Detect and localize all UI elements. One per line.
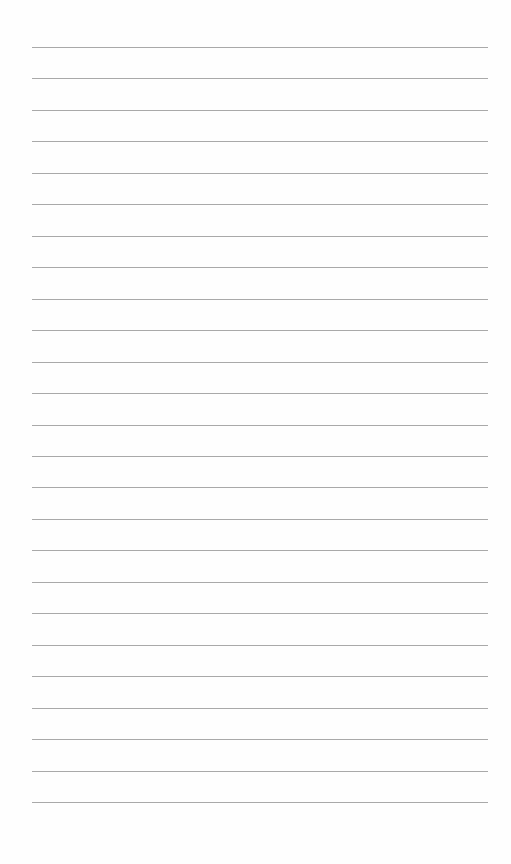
ruled-line [32, 78, 488, 79]
ruled-line [32, 299, 488, 300]
ruled-line [32, 802, 488, 803]
ruled-line [32, 613, 488, 614]
ruled-line [32, 204, 488, 205]
ruled-line [32, 739, 488, 740]
ruled-line [32, 771, 488, 772]
ruled-line [32, 708, 488, 709]
lined-paper-page [0, 0, 511, 864]
ruled-line [32, 582, 488, 583]
ruled-line [32, 487, 488, 488]
ruled-line [32, 173, 488, 174]
ruled-line [32, 645, 488, 646]
ruled-line [32, 362, 488, 363]
ruled-line [32, 676, 488, 677]
ruled-line [32, 141, 488, 142]
ruled-line [32, 330, 488, 331]
ruled-line [32, 550, 488, 551]
ruled-line [32, 47, 488, 48]
ruled-line [32, 110, 488, 111]
ruled-line [32, 456, 488, 457]
ruled-line [32, 236, 488, 237]
ruled-line [32, 425, 488, 426]
ruled-line [32, 267, 488, 268]
ruled-line [32, 519, 488, 520]
ruled-line [32, 393, 488, 394]
